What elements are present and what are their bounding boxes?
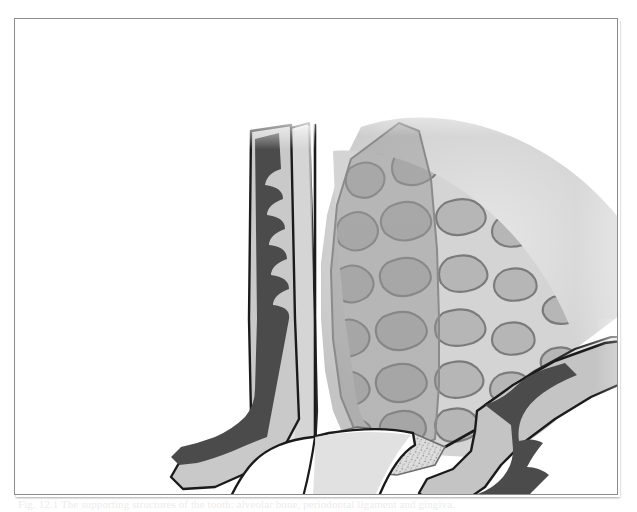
illustration-page: Fig. 12.1 The supporting structures of t…: [0, 0, 637, 512]
caption-strip: Fig. 12.1 The supporting structures of t…: [0, 500, 637, 512]
bone-fade-top: [295, 89, 618, 175]
gingiva-left-fade: [205, 111, 315, 181]
gingiva-right-fade: [595, 319, 618, 409]
figure-plate: [14, 18, 618, 495]
anatomy-figure: [15, 19, 618, 495]
figure-caption: Fig. 12.1 The supporting structures of t…: [18, 500, 455, 510]
